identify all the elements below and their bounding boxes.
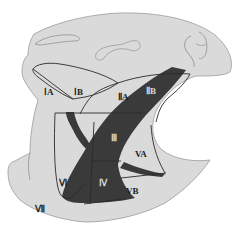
label-iv: Ⅳ [99,178,108,188]
label-ia: ⅠA [44,87,54,97]
neck-levels-diagram: ⅠA ⅠB ⅡA ⅡB Ⅲ Ⅳ VA VB Ⅵ Ⅶ [0,0,246,247]
label-vb: VB [126,186,139,196]
label-vi: Ⅵ [58,178,67,188]
label-ib: ⅠB [74,87,83,97]
label-va: VA [135,149,147,159]
label-iii: Ⅲ [111,133,117,143]
label-iib: ⅡB [146,86,156,96]
label-iia: ⅡA [118,92,129,102]
label-vii: Ⅶ [34,204,45,214]
